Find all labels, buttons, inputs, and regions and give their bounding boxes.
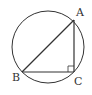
label-b: B (12, 71, 20, 84)
label-a: A (75, 6, 85, 19)
right-angle-marker (68, 66, 74, 72)
segment-ab (22, 20, 74, 72)
geometry-diagram: A B C (0, 0, 92, 95)
label-c: C (74, 75, 82, 88)
